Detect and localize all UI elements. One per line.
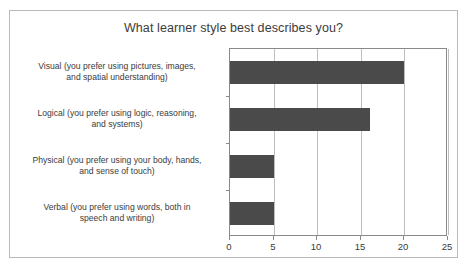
bar-series	[230, 49, 446, 235]
category-label-line: Logical (you prefer using logic, reasoni…	[37, 108, 196, 119]
plot-area	[229, 48, 447, 236]
bar[interactable]	[230, 202, 274, 225]
x-axis: 0510152025	[229, 236, 448, 262]
x-axis-tick-label: 0	[226, 241, 231, 252]
bar[interactable]	[230, 155, 274, 178]
category-label-line: Verbal (you prefer using words, both in	[43, 202, 190, 213]
x-axis-tick	[273, 236, 274, 240]
category-label-line: Physical (you prefer using your body, ha…	[33, 155, 202, 166]
category-label: Verbal (you prefer using words, both ins…	[11, 189, 223, 236]
x-axis-tick	[229, 236, 230, 240]
bar[interactable]	[230, 61, 404, 84]
x-axis-tick-label: 5	[270, 241, 275, 252]
category-label-line: and systems)	[91, 119, 142, 130]
bar[interactable]	[230, 108, 370, 131]
x-axis-tick	[447, 236, 448, 240]
category-label-line: speech and writing)	[80, 213, 155, 224]
x-axis-tick-label: 25	[442, 241, 453, 252]
bar-slot	[230, 143, 274, 190]
x-axis-tick-label: 20	[398, 241, 409, 252]
category-label-line: and sense of touch)	[79, 166, 155, 177]
category-label: Logical (you prefer using logic, reasoni…	[11, 95, 223, 142]
gridline	[448, 49, 449, 235]
chart-frame: What learner style best describes you? V…	[9, 10, 458, 258]
x-axis-tick-label: 10	[311, 241, 322, 252]
bar-slot	[230, 190, 274, 237]
category-label-line: and spatial understanding)	[66, 72, 167, 83]
x-axis-tick	[316, 236, 317, 240]
bar-slot	[230, 96, 370, 143]
category-label-line: Visual (you prefer using pictures, image…	[38, 61, 195, 72]
x-axis-tick	[403, 236, 404, 240]
category-label: Visual (you prefer using pictures, image…	[11, 48, 223, 95]
chart-title: What learner style best describes you?	[10, 21, 457, 35]
x-axis-tick-label: 15	[355, 241, 366, 252]
category-axis-labels: Visual (you prefer using pictures, image…	[10, 48, 229, 236]
x-axis-tick	[360, 236, 361, 240]
bar-slot	[230, 49, 404, 96]
category-label: Physical (you prefer using your body, ha…	[11, 142, 223, 189]
